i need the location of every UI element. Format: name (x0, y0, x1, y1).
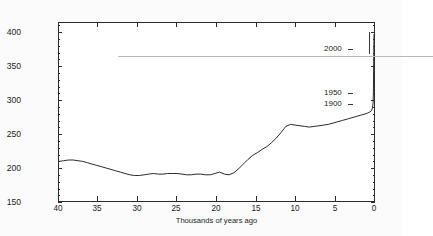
y-tick-major-right (371, 202, 375, 203)
y-tick-minor-right (373, 127, 375, 128)
annotation-label-1950: 1950 (324, 88, 342, 97)
x-tick-top (256, 22, 257, 27)
x-tick-label-5: 5 (322, 204, 348, 213)
y-tick-major (58, 100, 62, 101)
x-tick-label-40: 40 (45, 204, 71, 213)
y-tick-minor (58, 73, 60, 74)
y-tick-minor (58, 121, 60, 122)
y-tick-major (58, 168, 62, 169)
x-tick-top (295, 22, 296, 27)
y-tick-minor (58, 46, 60, 47)
y-tick-major (58, 202, 62, 203)
y-tick-minor-right (373, 161, 375, 162)
x-tick-label-35: 35 (84, 204, 110, 213)
annotation-label-2000: 2000 (324, 44, 342, 53)
x-tick-top (97, 22, 98, 27)
y-tick-label-350: 350 (0, 61, 21, 71)
x-tick-10 (295, 196, 296, 202)
y-tick-label-200: 200 (0, 163, 21, 173)
annotation-dash-1950 (348, 93, 353, 94)
y-tick-major-right (371, 66, 375, 67)
y-tick-minor (58, 93, 60, 94)
y-tick-minor-right (373, 114, 375, 115)
y-tick-minor (58, 59, 60, 60)
annotation-dash-2000 (348, 49, 353, 50)
y-tick-minor-right (373, 46, 375, 47)
y-tick-minor (58, 53, 60, 54)
y-tick-minor-right (373, 39, 375, 40)
y-tick-label-250: 250 (0, 129, 21, 139)
y-tick-minor (58, 141, 60, 142)
x-tick-5 (335, 196, 336, 202)
x-tick-top (137, 22, 138, 27)
y-tick-major (58, 66, 62, 67)
annotation-bar-2000 (369, 32, 370, 54)
x-tick-label-10: 10 (282, 204, 308, 213)
y-tick-minor (58, 175, 60, 176)
y-tick-minor (58, 182, 60, 183)
y-tick-minor-right (373, 155, 375, 156)
y-tick-minor (58, 155, 60, 156)
x-tick-20 (216, 196, 217, 202)
x-tick-label-30: 30 (124, 204, 150, 213)
y-tick-minor-right (373, 59, 375, 60)
x-tick-label-25: 25 (163, 204, 189, 213)
y-tick-major-right (371, 168, 375, 169)
y-tick-minor-right (373, 87, 375, 88)
y-tick-major-right (371, 100, 375, 101)
y-tick-minor-right (373, 107, 375, 108)
y-tick-minor (58, 127, 60, 128)
y-tick-minor-right (373, 182, 375, 183)
y-tick-minor (58, 161, 60, 162)
y-tick-minor-right (373, 80, 375, 81)
y-tick-minor (58, 148, 60, 149)
x-tick-30 (137, 196, 138, 202)
y-tick-minor-right (373, 121, 375, 122)
y-tick-minor (58, 80, 60, 81)
x-tick-top (335, 22, 336, 27)
x-tick-15 (256, 196, 257, 202)
y-tick-major (58, 134, 62, 135)
y-tick-major-right (371, 134, 375, 135)
y-tick-minor-right (373, 148, 375, 149)
y-tick-minor-right (373, 25, 375, 26)
x-tick-label-15: 15 (243, 204, 269, 213)
y-tick-label-300: 300 (0, 95, 21, 105)
y-tick-minor (58, 114, 60, 115)
y-tick-minor (58, 39, 60, 40)
y-tick-label-400: 400 (0, 27, 21, 37)
x-tick-label-20: 20 (203, 204, 229, 213)
y-tick-minor-right (373, 141, 375, 142)
y-tick-minor (58, 189, 60, 190)
x-tick-label-0: 0 (361, 204, 387, 213)
y-tick-major-right (371, 32, 375, 33)
x-tick-40 (58, 196, 59, 202)
annotation-dash-1900 (348, 104, 353, 105)
y-tick-minor-right (373, 189, 375, 190)
y-tick-minor-right (373, 73, 375, 74)
reference-line-400ppm (118, 56, 433, 57)
x-tick-25 (176, 196, 177, 202)
y-tick-minor-right (373, 53, 375, 54)
y-tick-minor (58, 107, 60, 108)
x-tick-0 (374, 196, 375, 202)
y-tick-minor-right (373, 175, 375, 176)
annotation-label-1900: 1900 (324, 99, 342, 108)
x-tick-top (176, 22, 177, 27)
x-tick-top (216, 22, 217, 27)
x-axis-title: Thousands of years ago (58, 216, 375, 225)
y-tick-minor (58, 25, 60, 26)
y-tick-minor (58, 87, 60, 88)
y-tick-minor-right (373, 93, 375, 94)
y-tick-label-150: 150 (0, 197, 21, 207)
y-tick-major (58, 32, 62, 33)
x-tick-35 (97, 196, 98, 202)
